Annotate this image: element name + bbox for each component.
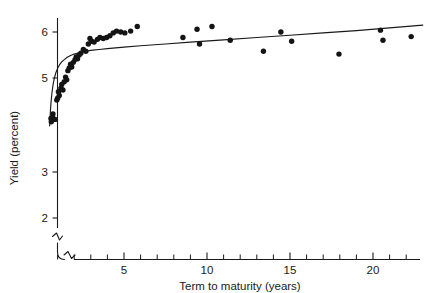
data-point xyxy=(135,24,140,29)
data-point xyxy=(209,24,214,29)
data-point xyxy=(60,87,65,92)
data-point xyxy=(378,27,383,32)
data-point xyxy=(408,34,413,39)
x-tick-label-20: 20 xyxy=(367,264,380,276)
x-tick-label-15: 15 xyxy=(284,264,297,276)
x-axis-title: Term to maturity (years) xyxy=(179,280,301,292)
data-point xyxy=(64,77,69,82)
data-point xyxy=(50,111,55,116)
data-point xyxy=(336,51,341,56)
data-point xyxy=(380,38,385,43)
x-tick-label-10: 10 xyxy=(201,264,214,276)
data-point xyxy=(197,41,202,46)
data-point xyxy=(261,49,266,54)
data-point xyxy=(128,28,133,33)
data-point xyxy=(180,35,185,40)
scatter-plot-svg: 6 5 3 2 5 10 15 20 Term to maturity (yea… xyxy=(0,0,434,293)
data-point xyxy=(289,39,294,44)
data-point xyxy=(52,117,57,122)
y-tick-label-2: 2 xyxy=(42,212,48,224)
data-point xyxy=(122,30,127,35)
data-point xyxy=(69,64,74,69)
y-tick-label-3: 3 xyxy=(42,166,48,178)
y-tick-label-5: 5 xyxy=(42,72,48,84)
x-tick-label-5: 5 xyxy=(121,264,127,276)
chart-figure: 6 5 3 2 5 10 15 20 Term to maturity (yea… xyxy=(0,0,434,293)
plot-background xyxy=(0,0,434,293)
data-point xyxy=(228,38,233,43)
data-point xyxy=(83,49,88,54)
y-tick-label-6: 6 xyxy=(42,26,48,38)
data-point xyxy=(194,27,199,32)
data-point xyxy=(278,29,283,34)
y-axis-title: Yield (percent) xyxy=(8,111,20,186)
data-point xyxy=(57,93,62,98)
